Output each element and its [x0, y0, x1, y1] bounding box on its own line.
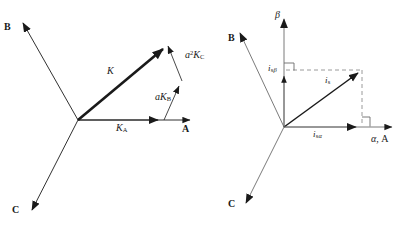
vector-a2kc-label-base: K: [193, 49, 200, 60]
vector-is-beta-label-sub-greek: β: [273, 66, 276, 73]
vector-is-label-sub: s: [328, 78, 331, 85]
vector-ka-label: KA: [116, 123, 128, 134]
axis-alpha-label-a: A: [381, 133, 388, 144]
vector-akb-label-base: K: [160, 91, 167, 102]
right-panel-canvas: [206, 0, 412, 233]
axis-beta-label: β: [275, 10, 280, 20]
vector-is-alpha-label: isα: [313, 130, 322, 140]
axis-c-label: C: [12, 205, 19, 215]
vector-ka-label-sub: A: [123, 126, 128, 133]
vector-akb-label: aKB: [155, 92, 171, 103]
axis-c-line: [32, 120, 78, 210]
panel-right-alpha-beta-vectors: β α, A B C isβ is isα: [206, 0, 412, 233]
vector-is-alpha-label-sub-greek: α: [318, 132, 322, 139]
axis-alpha-label: α, A: [371, 134, 388, 144]
figure-root: B C A K KA aKB a2KC: [0, 0, 412, 233]
axis-b-label: B: [4, 22, 11, 32]
axis-b-line: [23, 23, 78, 120]
vector-a2kc-label: a2KC: [185, 50, 204, 61]
axis-c-label: C: [228, 199, 235, 209]
right-angle-mark-alpha: [362, 117, 370, 127]
axis-b-label: B: [228, 33, 235, 43]
vector-akb-label-sub: B: [167, 95, 172, 102]
axis-c-line: [246, 127, 284, 203]
vector-ka-label-base: K: [116, 122, 123, 133]
vector-a2kc-label-sub: C: [200, 53, 205, 60]
left-panel-canvas: [0, 0, 206, 233]
axis-a-label: A: [182, 124, 189, 134]
axis-b-line: [240, 33, 284, 127]
vector-a2kc-component: [168, 46, 182, 81]
right-angle-mark-beta: [284, 63, 294, 71]
axis-alpha-label-greek: α,: [371, 133, 379, 144]
vector-k-resultant: [78, 49, 163, 120]
vector-is-beta-label: isβ: [268, 64, 277, 74]
vector-is-label: is: [325, 76, 330, 86]
vector-k-label: K: [107, 66, 114, 76]
vector-is-resultant: [284, 73, 358, 127]
panel-left-abc-vectors: B C A K KA aKB a2KC: [0, 0, 206, 233]
